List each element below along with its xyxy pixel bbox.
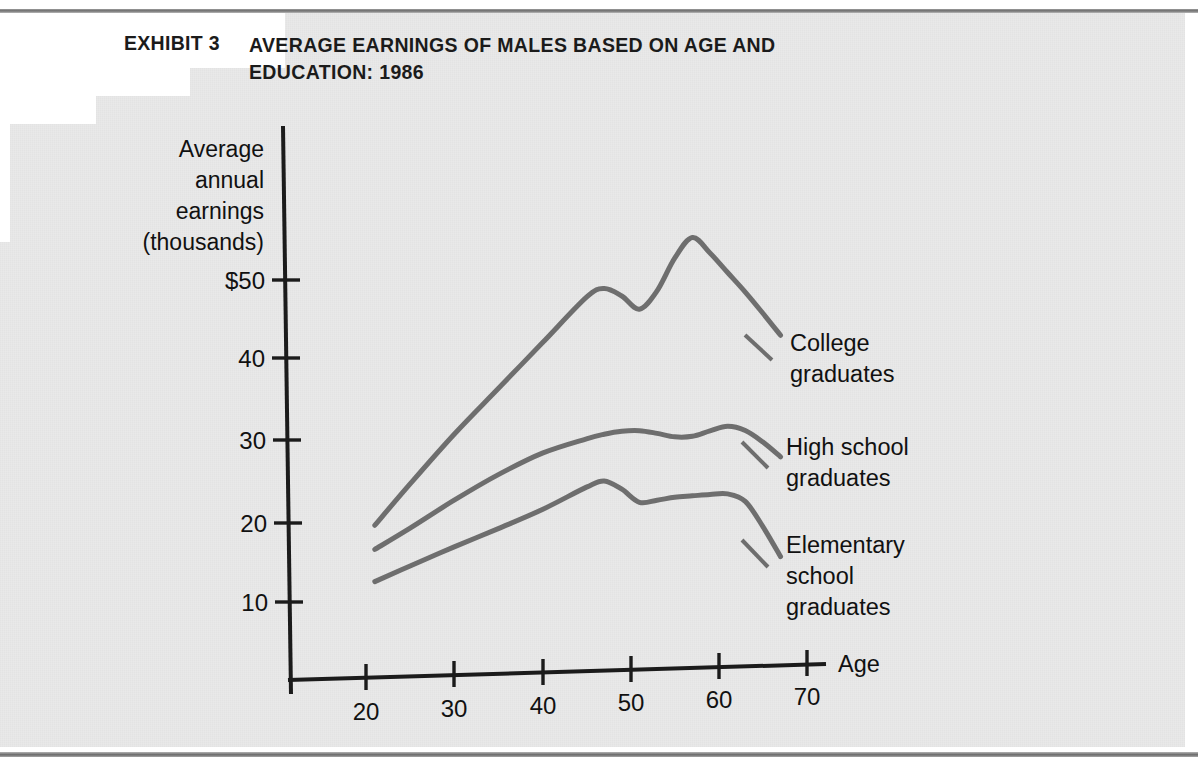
x-axis-title: Age xyxy=(838,651,880,677)
y-tick-label: $50 xyxy=(225,267,265,294)
x-tick-label: 30 xyxy=(441,695,468,722)
curve-college-graduates xyxy=(375,237,781,525)
series-label-college: College graduates xyxy=(790,330,895,387)
y-axis-line xyxy=(283,126,291,694)
y-axis-title: Average annual earnings (thousands) xyxy=(143,136,264,255)
series-label-line: school xyxy=(786,563,854,589)
curve-elementary-school-graduates xyxy=(375,481,781,582)
series-label-line: graduates xyxy=(786,594,891,620)
curve-high-school-graduates xyxy=(375,426,781,549)
leader-line-college xyxy=(745,335,772,360)
x-tick-label: 60 xyxy=(706,686,733,713)
y-tick-label: 20 xyxy=(240,510,267,537)
y-axis-title-line: annual xyxy=(195,167,264,193)
chart-figure: $50 40 30 20 10 Average annual earnings … xyxy=(0,0,1198,769)
y-axis-title-line: (thousands) xyxy=(143,229,264,255)
chart-svg: $50 40 30 20 10 Average annual earnings … xyxy=(0,0,1198,769)
series-label-line: College xyxy=(790,330,870,356)
x-tick-label: 50 xyxy=(618,689,645,716)
y-axis-title-line: earnings xyxy=(176,198,264,224)
series-label-line: High school xyxy=(786,434,909,460)
series-label-line: Elementary xyxy=(786,532,905,558)
y-axis-title-line: Average xyxy=(179,136,264,162)
y-tick-label: 30 xyxy=(239,427,266,454)
series-label-line: graduates xyxy=(786,465,891,491)
chart-curves xyxy=(375,237,781,581)
y-tick-label: 40 xyxy=(238,345,265,372)
x-axis-line xyxy=(288,664,826,680)
x-tick-label: 20 xyxy=(353,698,380,725)
series-label-line: graduates xyxy=(790,361,895,387)
x-tick-label: 40 xyxy=(530,692,557,719)
leader-line-elementary xyxy=(742,540,768,567)
series-label-elementary: Elementary school graduates xyxy=(786,532,905,620)
y-tick-label: 10 xyxy=(241,589,268,616)
x-tick-label: 70 xyxy=(794,683,821,710)
series-label-high-school: High school graduates xyxy=(786,434,909,491)
